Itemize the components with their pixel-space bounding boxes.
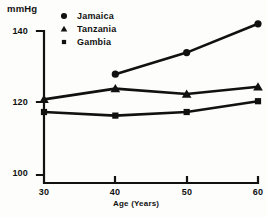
legend-square-marker-icon	[62, 40, 66, 44]
data-point-jamaica-40	[112, 71, 119, 78]
legend-circle-marker-icon	[61, 13, 67, 19]
data-point-jamaica-50	[183, 49, 190, 56]
legend-marker-group	[61, 13, 68, 44]
series-line-gambia	[44, 101, 258, 115]
data-point-gambia-60	[255, 98, 261, 104]
plot-area	[0, 0, 267, 217]
data-point-gambia-40	[112, 113, 118, 119]
legend-triangle-marker-icon	[61, 26, 68, 32]
series-line-tanzania	[44, 87, 258, 100]
x-axis-spine	[44, 177, 258, 183]
series-group	[39, 20, 263, 119]
series-gambia	[41, 98, 261, 119]
data-point-gambia-30	[41, 109, 47, 115]
data-point-jamaica-60	[254, 20, 261, 27]
series-tanzania	[39, 82, 263, 103]
data-point-gambia-50	[184, 109, 190, 115]
blood-pressure-line-chart: mmHg 140 120 100 30 40 50 60 Age (Years)…	[0, 0, 267, 217]
series-jamaica	[112, 20, 262, 78]
